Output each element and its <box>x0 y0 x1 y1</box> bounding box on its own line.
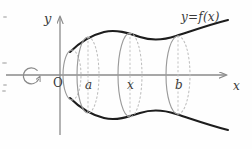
function-label: y=f(x) <box>181 11 220 23</box>
curve-lower-mirror <box>70 98 228 130</box>
scan-artifact <box>2 62 7 64</box>
solid-of-revolution-figure: y x O a x b y=f(x) <box>0 0 252 149</box>
tick-label-a: a <box>85 79 92 91</box>
axes-group <box>6 17 226 135</box>
origin-label: O <box>53 77 63 89</box>
tick-label-x: x <box>127 79 134 91</box>
scan-artifact <box>3 16 7 18</box>
scan-artifact <box>2 90 6 92</box>
x-axis-label: x <box>233 80 240 92</box>
y-axis-label: y <box>44 12 51 25</box>
curve-upper-fx <box>70 20 228 52</box>
rotation-arrow-icon <box>23 68 38 84</box>
tick-label-b: b <box>175 79 183 91</box>
scan-artifact <box>3 84 7 86</box>
